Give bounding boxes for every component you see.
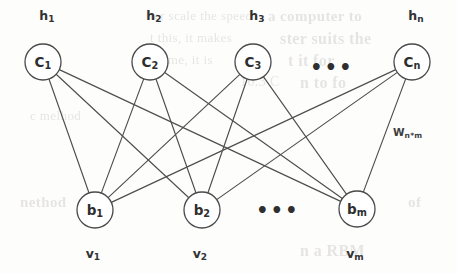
node-label-c1: C1 [35, 55, 52, 70]
edge-c3-b2 [208, 79, 247, 193]
node-label-b2: b2 [194, 203, 211, 218]
graph-layer [0, 0, 457, 273]
node-label-c2: C2 [142, 55, 159, 70]
edge-c1-bm [59, 70, 340, 202]
node-label-c3: C3 [245, 55, 262, 70]
visible-layer-ellipsis: ••• [256, 201, 300, 220]
visible-unit-label-b2: v2 [193, 248, 208, 262]
edge-c3-b1 [108, 74, 240, 197]
edge-cn-b2 [217, 72, 398, 199]
hidden-layer-ellipsis: ••• [310, 58, 354, 77]
visible-unit-label-b1: v1 [86, 248, 101, 262]
weight-matrix-label: Wn*m [393, 127, 422, 139]
edge-c2-b2 [156, 79, 196, 193]
hidden-unit-label-c1: h1 [39, 10, 54, 24]
hidden-unit-label-cn: hn [408, 10, 424, 24]
hidden-unit-label-c3: h3 [249, 10, 264, 24]
node-label-bm: bm [347, 202, 367, 217]
edge-cn-b1 [111, 70, 395, 203]
edge-c3-bm [263, 77, 346, 195]
visible-unit-label-bm: vm [346, 248, 364, 262]
edge-group [49, 70, 406, 203]
node-label-b1: b1 [87, 203, 104, 218]
node-label-cn: Cn [403, 55, 420, 70]
hidden-unit-label-c2: h2 [146, 10, 161, 24]
figure-canvas: a computer toter scale the speedt this, … [0, 0, 457, 273]
edge-c1-b1 [49, 79, 89, 193]
edge-c2-b1 [101, 79, 143, 193]
